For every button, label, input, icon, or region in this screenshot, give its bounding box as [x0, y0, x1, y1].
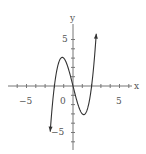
arrowhead-icon [94, 34, 98, 39]
y-tick-label-neg5: −5 [51, 127, 65, 137]
y-axis-label: y [69, 13, 76, 23]
origin-label: 0 [60, 96, 66, 106]
x-axis-label: x [134, 81, 139, 91]
x-tick-label-neg5: −5 [19, 96, 33, 106]
x-tick-label-5: 5 [116, 96, 122, 106]
y-tick-label-5: 5 [62, 34, 68, 44]
cubic-function-graph: y x −5 0 5 5 −5 [0, 0, 146, 154]
